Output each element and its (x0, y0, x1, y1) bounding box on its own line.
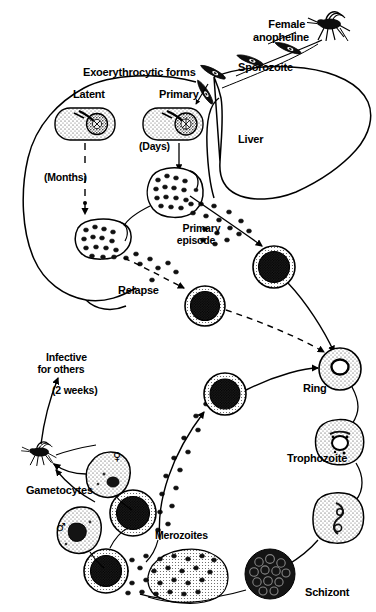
label-gametocytes: Gametocytes (26, 484, 93, 496)
male-symbol-icon: ♂ (56, 521, 66, 534)
label-exoerythrocytic-forms: Exoerythrocytic forms (83, 66, 196, 78)
label-trophozoite: Trophozoite (287, 452, 347, 464)
label-primary-episode: Primary episode (160, 211, 232, 258)
label-primary: Primary (159, 88, 199, 100)
infected-erythrocyte-gametocyte-source-lower (84, 549, 128, 593)
infected-erythrocyte-loop (204, 373, 246, 415)
liver-outline-right (207, 66, 371, 199)
label-two-weeks: (2 weeks) (52, 385, 97, 397)
malaria-life-cycle-diagram: Female anopheline Sporozoite Exoerythroc… (0, 0, 376, 612)
label-female-anopheline: Female anopheline (240, 6, 322, 55)
label-liver: Liver (238, 133, 263, 145)
label-infective-for-others: Infective for others (22, 340, 100, 387)
latent-exoerythrocytic-form (55, 108, 115, 140)
label-sporozoite: Sporozoite (238, 61, 293, 73)
mature-schizont-erythrocyte (313, 493, 364, 543)
label-relapse: Relapse (118, 284, 159, 296)
female-symbol-icon: ♀ (113, 450, 121, 463)
merozoite-reinvasion-stream (156, 402, 209, 532)
mosquito-vector-bottom (21, 442, 56, 466)
infected-erythrocyte-relapse (185, 286, 225, 326)
primary-exoerythrocytic-form (143, 108, 203, 140)
label-ring: Ring (303, 382, 327, 394)
free-schizont (245, 549, 295, 599)
label-schizont: Schizont (305, 586, 349, 598)
relapse-schizont (75, 219, 131, 259)
label-latent: Latent (73, 88, 105, 100)
infected-erythrocyte-primary (253, 246, 295, 288)
label-days: (Days) (139, 141, 170, 153)
primary-episode-schizont (147, 168, 203, 218)
label-merozoites: Merozoites (155, 530, 208, 542)
label-months: (Months) (44, 172, 87, 184)
